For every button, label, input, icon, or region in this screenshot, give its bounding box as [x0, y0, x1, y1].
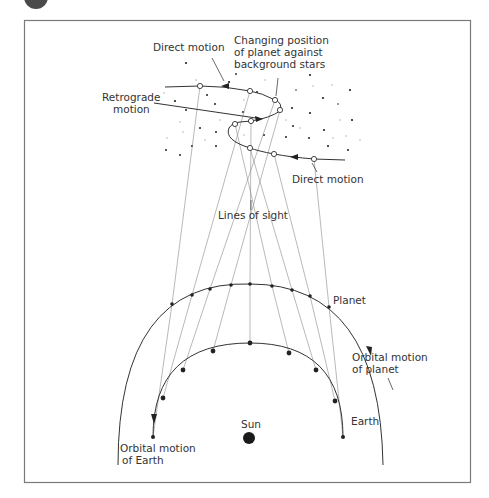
- lines-of-sight: [153, 86, 343, 437]
- retrograde-arrow: [255, 116, 263, 122]
- label-planet: Planet: [333, 294, 366, 306]
- orbital-motion-planet-leader: [388, 378, 393, 390]
- label-orbital-motion-planet-2: of planet: [352, 363, 399, 375]
- label-orbital-motion-earth-1: Orbital motion: [120, 442, 196, 454]
- label-direct-motion-top: Direct motion: [153, 41, 225, 53]
- label-orbital-motion-planet-1: Orbital motion: [352, 351, 428, 363]
- direct-motion-arrow-top: [221, 83, 229, 89]
- figure-badge-icon: [24, 0, 48, 9]
- earth-orbit-arrow: [151, 414, 157, 424]
- label-retrograde-1: Retrograde: [102, 91, 160, 103]
- label-orbital-motion-earth-2: of Earth: [122, 454, 164, 466]
- sun-icon: [243, 432, 255, 444]
- retrograde-motion-diagram: Direct motion Changing position of plane…: [0, 0, 489, 498]
- label-retrograde-2: motion: [113, 103, 150, 115]
- label-sun: Sun: [241, 418, 261, 430]
- label-lines-of-sight: Lines of sight: [218, 209, 288, 221]
- retrograde-leader: [154, 103, 256, 118]
- label-changing-position-2: of planet against: [234, 46, 323, 58]
- direct-motion-arrow-bottom: [290, 154, 298, 160]
- faint-stars: [163, 79, 361, 141]
- label-changing-position-1: Changing position: [234, 34, 329, 46]
- label-earth: Earth: [351, 415, 379, 427]
- changing-position-leader: [276, 78, 278, 96]
- label-direct-motion-bottom: Direct motion: [292, 173, 364, 185]
- label-changing-position-3: background stars: [234, 58, 325, 70]
- direct-motion-top-leader: [212, 58, 224, 81]
